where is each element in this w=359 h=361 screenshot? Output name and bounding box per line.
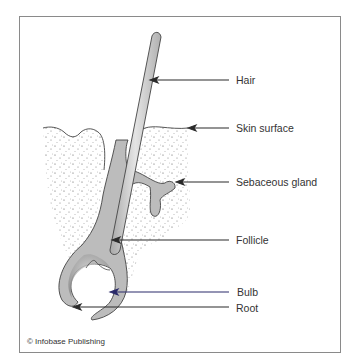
label-root: Root (236, 302, 258, 314)
copyright-credit: © Infobase Publishing (27, 337, 105, 346)
label-follicle: Follicle (236, 234, 269, 246)
label-hair: Hair (236, 74, 255, 86)
label-bulb: Bulb (237, 286, 258, 298)
label-skin-surface: Skin surface (236, 122, 294, 134)
label-sebaceous-gland: Sebaceous gland (236, 176, 317, 188)
